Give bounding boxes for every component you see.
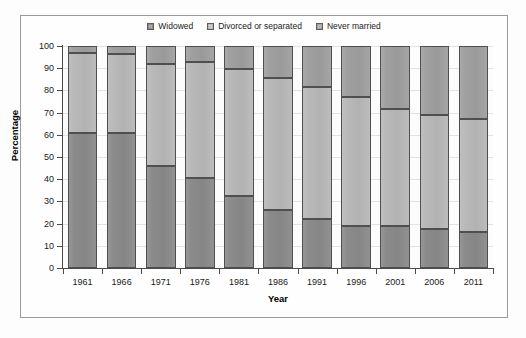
bar-segment[interactable] [224, 196, 254, 268]
bar-segment[interactable] [263, 46, 293, 78]
bar-segment-shading [108, 134, 136, 267]
bar-segment-shading [69, 47, 97, 52]
bar-segment-shading [342, 47, 370, 96]
bar-segment[interactable] [302, 46, 332, 87]
bar-segment-shading [186, 179, 214, 267]
bar-segment-shading [264, 47, 292, 77]
bar-group[interactable] [224, 46, 254, 268]
bar-group[interactable] [146, 46, 176, 268]
x-axis-title: Year [63, 293, 493, 304]
y-axis-tick [57, 68, 62, 69]
y-axis-tick [57, 113, 62, 114]
x-axis-tick [219, 269, 220, 274]
bar-segment[interactable] [68, 133, 98, 268]
x-axis-tick [298, 269, 299, 274]
bar-segment[interactable] [420, 115, 450, 229]
bar-group[interactable] [107, 46, 137, 268]
x-axis-tick-label: 1996 [346, 278, 366, 287]
bar-segment[interactable] [420, 229, 450, 268]
y-axis-title: Percentage [9, 91, 20, 181]
bar-group[interactable] [263, 46, 293, 268]
x-axis-tick-label: 2001 [385, 278, 405, 287]
bar-segment[interactable] [146, 166, 176, 268]
x-axis-tick [454, 269, 455, 274]
bar-segment-shading [186, 47, 214, 61]
bar-segment-shading [147, 47, 175, 63]
x-axis-tick-labels: 1961196619711976198119861991199620012006… [63, 278, 493, 292]
bar-segment[interactable] [146, 46, 176, 64]
bar-segment-shading [303, 47, 331, 86]
bar-segment[interactable] [459, 232, 489, 268]
bar-segment[interactable] [185, 178, 215, 268]
bar-group[interactable] [68, 46, 98, 268]
bar-segment[interactable] [380, 46, 410, 109]
bar-segment-shading [69, 134, 97, 267]
bar-segment[interactable] [224, 46, 254, 69]
bar-segment-shading [421, 116, 449, 228]
bar-segment[interactable] [420, 46, 450, 115]
bar-segment[interactable] [146, 64, 176, 166]
bar-segment[interactable] [107, 46, 137, 54]
x-axis-tick-label: 1961 [73, 278, 93, 287]
bar-group[interactable] [341, 46, 371, 268]
bar-segment[interactable] [302, 87, 332, 219]
bar-segment[interactable] [341, 226, 371, 268]
bar-segment-shading [381, 110, 409, 225]
bar-segment[interactable] [185, 46, 215, 62]
bar-group[interactable] [302, 46, 332, 268]
bar-segment[interactable] [341, 46, 371, 97]
y-axis-tick [57, 224, 62, 225]
x-axis-tick [258, 269, 259, 274]
bar-segment-shading [108, 47, 136, 53]
legend-entry-never-married[interactable]: Never married [316, 22, 381, 31]
y-axis-tick-label: 20 [2, 219, 54, 228]
bar-group[interactable] [185, 46, 215, 268]
legend-entry-divorced-or-separated[interactable]: Divorced or separated [207, 22, 302, 31]
bar-segment[interactable] [380, 109, 410, 226]
y-axis-tick-label: 90 [2, 64, 54, 73]
bar-group[interactable] [420, 46, 450, 268]
bar-segment-shading [69, 54, 97, 132]
x-axis-tick-label: 1976 [190, 278, 210, 287]
bar-segment-shading [303, 88, 331, 218]
legend-swatch-icon [207, 23, 214, 30]
bar-segment-shading [264, 211, 292, 267]
y-axis-tick-label: 10 [2, 241, 54, 250]
x-axis-tick [141, 269, 142, 274]
y-axis-tick [57, 246, 62, 247]
y-axis-tick [57, 179, 62, 180]
bar-segment[interactable] [68, 46, 98, 53]
bar-segment[interactable] [185, 62, 215, 179]
bar-segment[interactable] [263, 210, 293, 268]
bar-segment-shading [264, 79, 292, 209]
y-axis-tick [57, 268, 62, 269]
bar-segment-shading [421, 47, 449, 114]
bar-segment-shading [460, 233, 488, 267]
bar-segment[interactable] [459, 46, 489, 119]
legend-label: Widowed [158, 22, 193, 31]
bar-segment[interactable] [263, 78, 293, 210]
bar-segment[interactable] [302, 219, 332, 268]
bar-segment[interactable] [107, 133, 137, 268]
bar-segment[interactable] [68, 53, 98, 133]
bar-segment[interactable] [224, 69, 254, 196]
legend-entry-widowed[interactable]: Widowed [147, 22, 193, 31]
x-axis-tick [376, 269, 377, 274]
bar-group[interactable] [459, 46, 489, 268]
bar-segment[interactable] [341, 97, 371, 226]
bar-segment[interactable] [459, 119, 489, 232]
x-axis-line [62, 268, 494, 269]
bar-segment-shading [303, 220, 331, 267]
x-axis-tick-label: 1986 [268, 278, 288, 287]
bar-segment-shading [381, 47, 409, 108]
x-axis-tick [337, 269, 338, 274]
bar-segment[interactable] [107, 54, 137, 133]
x-axis-tick [493, 269, 494, 274]
x-axis-tick-label: 1966 [112, 278, 132, 287]
bar-group[interactable] [380, 46, 410, 268]
bar-segment-shading [460, 120, 488, 231]
bar-segment-shading [225, 197, 253, 267]
bar-segment[interactable] [380, 226, 410, 268]
x-axis-tick [63, 269, 64, 274]
bar-segment-shading [108, 55, 136, 132]
